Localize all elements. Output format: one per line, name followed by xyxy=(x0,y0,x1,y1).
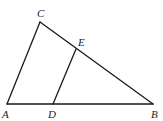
segment-de xyxy=(53,49,76,104)
label-a: A xyxy=(1,108,9,120)
label-b: B xyxy=(151,108,158,120)
segment-cb xyxy=(40,22,153,104)
label-c: C xyxy=(37,7,45,19)
segment-ac xyxy=(7,22,40,104)
label-e: E xyxy=(77,36,85,48)
triangle-diagram: A B C D E xyxy=(0,0,163,121)
label-d: D xyxy=(47,108,56,120)
